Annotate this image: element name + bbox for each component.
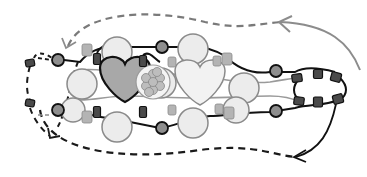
cube-bead <box>293 96 304 105</box>
round-bead <box>270 65 282 77</box>
cube-bead <box>314 97 323 107</box>
round-bead <box>270 105 282 117</box>
drop-bead <box>168 105 176 115</box>
round-bead <box>52 104 64 116</box>
flower-petal <box>145 88 154 97</box>
round-bead <box>156 122 168 134</box>
beading-diagram <box>0 0 367 177</box>
cube-bead <box>94 54 101 65</box>
drop-bead <box>224 107 234 119</box>
cube-bead <box>25 59 35 67</box>
drop-bead <box>168 57 176 67</box>
big-pearl-bead <box>67 69 97 99</box>
round-bead <box>52 54 64 66</box>
cube-bead <box>332 93 344 104</box>
drop-bead <box>213 56 221 66</box>
drop-bead <box>82 111 92 123</box>
cube-bead <box>140 56 147 67</box>
big-pearl-bead <box>178 108 208 138</box>
cube-bead <box>94 107 101 118</box>
big-pearl-bead <box>102 112 132 142</box>
drop-bead <box>215 104 223 114</box>
cube-bead <box>140 107 147 118</box>
cube-bead <box>330 71 342 82</box>
drop-bead <box>82 44 92 56</box>
flower-cluster <box>136 65 170 99</box>
cube-bead <box>314 70 323 79</box>
cube-bead <box>291 73 302 82</box>
flower-petal <box>153 68 162 77</box>
drop-bead <box>222 53 232 65</box>
beading-pattern-svg <box>0 0 367 177</box>
flower-petal <box>149 78 158 87</box>
cube-bead <box>25 99 35 107</box>
round-bead <box>156 41 168 53</box>
big-pearl-bead <box>178 34 208 64</box>
